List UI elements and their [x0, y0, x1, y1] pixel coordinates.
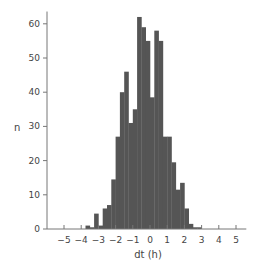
histogram-bar: [176, 190, 181, 229]
histogram-bar: [159, 41, 164, 229]
x-tick-label: 4: [216, 235, 222, 245]
histogram-bar: [98, 226, 103, 229]
histogram-bar: [86, 226, 91, 229]
histogram-bar: [141, 27, 146, 229]
histogram-bar: [133, 109, 138, 229]
y-tick-label: 60: [29, 19, 41, 29]
histogram-bar: [116, 137, 121, 229]
histogram-bar: [111, 179, 116, 229]
x-tick-label: −4: [75, 235, 89, 245]
histogram-bar: [163, 137, 168, 229]
histogram-bar: [167, 137, 172, 229]
y-tick-label: 40: [29, 87, 41, 97]
x-tick-label: −3: [92, 235, 105, 245]
histogram-bar: [189, 224, 194, 229]
histogram-bar: [154, 31, 159, 229]
histogram-bar: [180, 183, 185, 229]
y-tick-label: 30: [29, 121, 41, 131]
histogram-bar: [129, 123, 134, 229]
histogram-bar: [107, 205, 112, 229]
histogram-bars: [86, 17, 202, 229]
x-axis-label: dt (h): [134, 249, 162, 260]
histogram-bar: [184, 208, 189, 229]
x-tick-label: 1: [164, 235, 170, 245]
x-tick-label: 3: [199, 235, 205, 245]
histogram-bar: [103, 208, 108, 229]
histogram-bar: [172, 162, 177, 229]
y-tick-label: 50: [29, 53, 41, 63]
histogram-bar: [137, 17, 142, 229]
y-tick-label: 0: [34, 224, 40, 234]
histogram-bar: [150, 97, 155, 229]
x-tick-label: −1: [126, 235, 139, 245]
histogram-bar: [120, 92, 125, 229]
x-tick-label: 0: [147, 235, 153, 245]
histogram-bar: [146, 41, 151, 229]
x-tick-label: 2: [182, 235, 188, 245]
y-axis-label: n: [14, 122, 20, 133]
x-tick-label: −5: [57, 235, 70, 245]
histogram-chart: 0102030405060−5−4−3−2−1012345 n dt (h): [0, 0, 274, 275]
y-tick-label: 10: [29, 190, 41, 200]
x-tick-label: −2: [109, 235, 122, 245]
x-tick-label: 5: [233, 235, 239, 245]
y-tick-label: 20: [29, 156, 41, 166]
histogram-bar: [124, 72, 129, 229]
